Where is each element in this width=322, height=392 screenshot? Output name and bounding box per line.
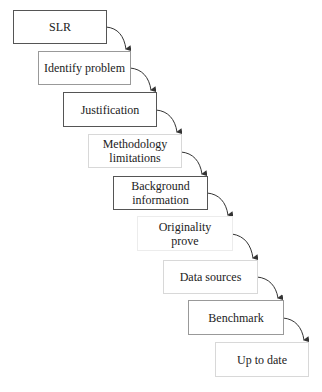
arrow-8 xyxy=(283,318,304,340)
step-label: Identify problem xyxy=(44,61,125,75)
arrow-6 xyxy=(232,234,253,258)
arrow-4 xyxy=(181,152,202,174)
step-label-line2: limitations xyxy=(109,151,160,165)
step-label-line1: Methodology xyxy=(103,137,168,151)
step-background-information: Background information xyxy=(113,176,208,210)
step-slr: SLR xyxy=(13,10,107,44)
arrow-2 xyxy=(130,68,151,90)
arrow-5 xyxy=(207,193,228,215)
step-methodology-limitations: Methodology limitations xyxy=(88,134,182,168)
arrow-1 xyxy=(106,27,126,49)
step-data-sources: Data sources xyxy=(163,260,258,294)
step-originality-prove: Originality prove xyxy=(137,216,233,251)
step-label-line1: Originality xyxy=(159,220,212,234)
step-label: Up to date xyxy=(237,353,287,367)
step-identify-problem: Identify problem xyxy=(38,51,131,85)
step-label: Data sources xyxy=(180,270,242,284)
step-label-line2: prove xyxy=(171,234,198,248)
step-label: Justification xyxy=(81,103,140,117)
step-benchmark: Benchmark xyxy=(188,300,284,335)
step-label: SLR xyxy=(49,20,71,34)
step-label-line2: information xyxy=(132,193,189,207)
step-up-to-date: Up to date xyxy=(215,342,309,377)
arrow-7 xyxy=(257,277,278,298)
step-label-line1: Background xyxy=(131,179,190,193)
step-justification: Justification xyxy=(63,92,157,127)
step-label: Benchmark xyxy=(208,311,263,325)
arrow-3 xyxy=(156,110,177,132)
